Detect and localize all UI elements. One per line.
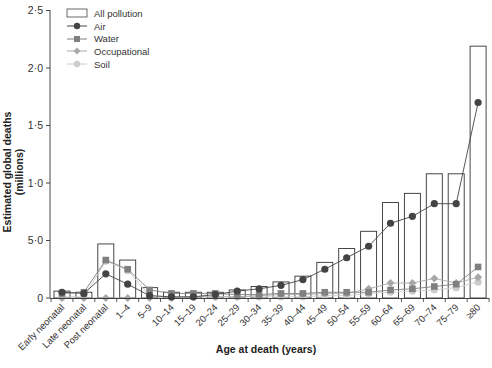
x-tick-label: 40–44 — [281, 302, 307, 328]
y-axis-label: Estimated global deaths (millions) — [1, 97, 25, 247]
x-axis-label: Age at death (years) — [0, 343, 492, 355]
diamond-marker-icon — [66, 46, 88, 56]
air-marker-icon — [212, 291, 219, 298]
water-marker-icon — [387, 287, 394, 294]
air-marker-icon — [58, 289, 65, 296]
y-tick-label: 2·0 — [28, 62, 43, 74]
x-tick-label: 60–64 — [368, 302, 394, 328]
air-marker-icon — [431, 200, 438, 207]
air-marker-icon — [168, 293, 175, 300]
legend: All pollution Air Water Occupational Soi… — [66, 7, 149, 70]
legend-item-air: Air — [66, 20, 149, 33]
x-tick-label: ≥80 — [464, 302, 483, 321]
x-tick-label: 45–49 — [303, 302, 329, 328]
circle-marker-icon — [66, 21, 88, 31]
y-tick-label: 0 — [37, 292, 43, 304]
x-tick-label: 65–69 — [390, 302, 416, 328]
x-tick-label: 25–29 — [215, 302, 241, 328]
air-marker-icon — [409, 213, 416, 220]
bars-all-pollution — [54, 46, 486, 298]
water-marker-icon — [453, 281, 460, 288]
air-marker-icon — [102, 270, 109, 277]
air-marker-icon — [453, 200, 460, 207]
circle-marker-icon — [66, 59, 88, 69]
legend-item-soil: Soil — [66, 58, 149, 71]
x-tick-label: 75–79 — [434, 302, 460, 328]
air-marker-icon — [80, 290, 87, 297]
air-marker-icon — [124, 281, 131, 288]
air-marker-icon — [321, 266, 328, 273]
x-tick-label: 15–19 — [171, 302, 197, 328]
x-tick-label: 1–4 — [113, 302, 132, 321]
bar-swatch-icon — [66, 8, 88, 18]
air-marker-icon — [475, 99, 482, 106]
air-marker-icon — [277, 282, 284, 289]
legend-item-water: Water — [66, 32, 149, 45]
air-marker-icon — [190, 293, 197, 300]
x-tick-label: 20–24 — [193, 302, 219, 328]
water-marker-icon — [431, 283, 438, 290]
square-marker-icon — [66, 34, 88, 44]
water-marker-icon — [103, 257, 110, 264]
x-tick-label: 10–14 — [149, 302, 175, 328]
water-marker-icon — [409, 286, 416, 293]
water-marker-icon — [124, 266, 131, 273]
water-marker-icon — [343, 289, 350, 296]
x-tick-label: 35–39 — [259, 302, 285, 328]
bar-all-pollution — [470, 46, 486, 298]
water-marker-icon — [365, 289, 372, 296]
air-marker-icon — [365, 243, 372, 250]
air-marker-icon — [256, 285, 263, 292]
air-marker-icon — [234, 288, 241, 295]
x-tick-label: 30–34 — [237, 302, 263, 328]
water-marker-icon — [278, 290, 285, 297]
water-marker-icon — [300, 290, 307, 297]
legend-item-all-pollution: All pollution — [66, 7, 149, 20]
air-marker-icon — [299, 276, 306, 283]
clipped-caption — [60, 359, 480, 367]
bar-all-pollution — [120, 260, 136, 298]
x-tick-label: 70–74 — [412, 302, 438, 328]
water-marker-icon — [475, 264, 482, 271]
legend-item-occupational: Occupational — [66, 45, 149, 58]
x-tick-label: 50–54 — [325, 302, 351, 328]
y-tick-label: 2·5 — [28, 4, 43, 16]
air-marker-icon — [387, 220, 394, 227]
y-tick-label: 1·5 — [28, 119, 43, 131]
water-marker-icon — [322, 289, 329, 296]
y-tick-label: 1·0 — [28, 177, 43, 189]
x-tick-label: 55–59 — [347, 302, 373, 328]
y-tick-label: 5·0 — [28, 234, 43, 246]
air-marker-icon — [343, 254, 350, 261]
